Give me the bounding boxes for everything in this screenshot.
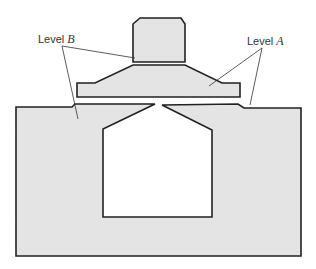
base-body bbox=[16, 104, 301, 256]
level-b-leader-upper bbox=[62, 46, 135, 58]
diagram-canvas: Level B Level A bbox=[0, 0, 316, 269]
level-a-leader-lower bbox=[250, 48, 262, 105]
level-a-label: Level A bbox=[247, 34, 284, 48]
level-a-leader-upper bbox=[209, 48, 262, 86]
top-block bbox=[133, 18, 185, 62]
level-b-label: Level B bbox=[38, 32, 75, 46]
